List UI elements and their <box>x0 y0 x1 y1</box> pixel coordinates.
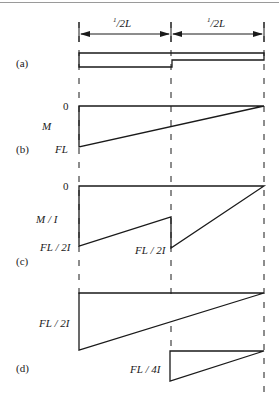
large-label-d: FL / 2I <box>39 317 69 329</box>
guide-lines <box>79 22 264 400</box>
mid-label-c: FL / 2I <box>135 244 165 256</box>
dimension-arrow-right <box>172 31 263 37</box>
panel-tag-c: (c) <box>16 255 28 267</box>
axis-label-m-over-i: M / I <box>36 213 57 225</box>
moment-diagram <box>79 106 264 147</box>
dimension-arrow-left <box>80 31 170 37</box>
panel-tag-b: (b) <box>16 143 29 155</box>
panel-tag-d: (d) <box>16 362 29 374</box>
zero-label-b: 0 <box>63 100 69 112</box>
zero-label-c: 0 <box>63 180 69 192</box>
panel-tag-a: (a) <box>16 57 28 69</box>
diagram-canvas <box>0 0 279 401</box>
max-label-fl: FL <box>55 143 68 155</box>
axis-label-m: M <box>42 120 51 132</box>
small-label-d: FL / 4I <box>130 363 160 375</box>
left-label-c: FL / 2I <box>40 241 70 253</box>
dimension-label-right: 1/2L <box>207 14 225 29</box>
dimension-label-left: 1/2L <box>113 14 131 29</box>
small-triangle <box>170 351 264 381</box>
